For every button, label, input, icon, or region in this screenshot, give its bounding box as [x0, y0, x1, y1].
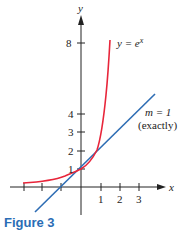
figure-caption: Figure 3: [4, 215, 55, 230]
curve-label: y = ex: [116, 36, 144, 49]
x-axis-label: x: [168, 181, 174, 193]
x-tick-label-3: 3: [136, 193, 142, 205]
y-tick-label-4: 4: [68, 108, 74, 120]
y-axis-label: y: [77, 2, 83, 14]
y-tick-label-1: 1: [68, 163, 74, 175]
y-axis-arrow-icon: [78, 15, 84, 25]
x-axis-arrow-icon: [157, 184, 166, 190]
y-tick-label-8: 8: [66, 37, 72, 49]
exp-curve: [23, 40, 110, 183]
line-label-exactly: (exactly): [138, 119, 177, 132]
chart-canvas: y x 1 2 3 1 2 3 4 8 y = ex m = 1 (exactl…: [0, 0, 188, 234]
x-tick-label-1: 1: [98, 193, 104, 205]
y-tick-label-2: 2: [68, 145, 74, 157]
x-tick-label-2: 2: [117, 193, 123, 205]
y-tick-label-3: 3: [68, 126, 74, 138]
line-label-slope: m = 1: [145, 106, 171, 118]
